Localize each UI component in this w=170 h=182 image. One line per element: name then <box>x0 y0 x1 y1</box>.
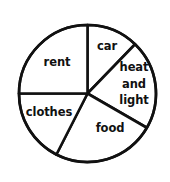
pie-label-car: car <box>97 38 117 55</box>
pie-label-rent: rent <box>44 54 71 71</box>
pie-label-heat-line-2: and <box>119 76 148 93</box>
pie-label-car-line-1: car <box>97 38 117 55</box>
pie-label-clothes-line-1: clothes <box>26 104 72 121</box>
pie-label-rent-line-1: rent <box>44 54 71 71</box>
pie-label-heat-and-light: heat and light <box>119 59 148 109</box>
pie-label-heat-line-3: light <box>119 92 148 109</box>
pie-label-clothes: clothes <box>26 104 72 121</box>
pie-chart: car heat and light food clothes rent <box>0 0 170 182</box>
pie-label-food: food <box>96 120 125 137</box>
pie-label-food-line-1: food <box>96 120 125 137</box>
pie-label-heat-line-1: heat <box>119 59 148 76</box>
